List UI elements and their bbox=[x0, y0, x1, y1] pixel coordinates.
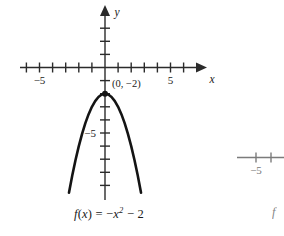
y-axis-group bbox=[100, 5, 110, 200]
secondary-partial-graph: −5 bbox=[237, 153, 284, 177]
vertex-point-marker bbox=[102, 91, 108, 97]
equation-argument: (x) bbox=[78, 207, 93, 221]
parabola-graph-svg: −5 5 x y −5 (0, −2) −5 bbox=[0, 0, 284, 236]
x-axis-tick-label-minus5: −5 bbox=[34, 74, 46, 86]
x-axis-label: x bbox=[208, 73, 215, 85]
equation-rhs-lead: −x bbox=[106, 207, 119, 221]
equation-exponent: 2 bbox=[119, 205, 123, 215]
y-axis-label: y bbox=[113, 6, 120, 19]
equation-equals: = bbox=[96, 207, 103, 221]
vertex-coordinate-label: (0, −2) bbox=[112, 78, 141, 90]
y-axis-arrowhead bbox=[100, 5, 110, 16]
secondary-equation-f-name: f bbox=[272, 205, 276, 219]
equation-rhs-tail: − 2 bbox=[127, 207, 144, 221]
secondary-function-equation-cropped: f bbox=[272, 205, 276, 220]
y-axis-tick-label-minus5: −5 bbox=[84, 127, 96, 139]
function-equation: f(x) = −x2 − 2 bbox=[74, 205, 144, 222]
x-axis-group bbox=[20, 63, 207, 73]
secondary-x-tick-label-minus5: −5 bbox=[250, 164, 262, 176]
math-figure: −5 5 x y −5 (0, −2) −5 f(x) = −x2 − 2 f bbox=[0, 0, 284, 236]
x-axis-arrowhead bbox=[196, 63, 207, 73]
x-axis-tick-label-positive5: 5 bbox=[168, 74, 174, 86]
